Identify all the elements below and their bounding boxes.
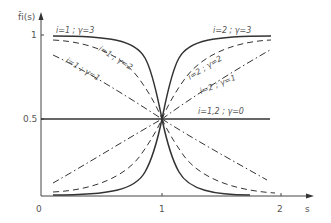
y-axis-label: f̄i(s) [18,11,35,22]
chart: f̄i(s) s 0 1 2 1 0.5 i=1 ; γ=3 i=1 ; γ=2… [0,0,331,223]
tick-label-x1: 1 [159,204,165,214]
annot-i2-g3: i=2 ; γ=3 [213,26,251,35]
x-axis-arrow-icon [306,194,314,199]
tick-label-x0: 0 [36,204,42,214]
curve-g1-lower-left [53,119,162,183]
tick-label-y1: 1 [31,30,37,40]
annot-i2-g1: i=2 ; γ=1 [198,73,237,96]
tick-label-x2: 2 [277,204,283,214]
y-axis-arrow-icon [39,12,44,20]
curve-g3-lower-right [162,119,250,195]
curve-g3-lower-left [53,119,162,195]
annot-i1-g3: i=1 ; γ=3 [56,26,94,35]
axes [39,12,315,199]
annot-i1-g2: i=1 ; γ=2 [97,44,134,72]
tick-label-y05: 0.5 [23,114,37,124]
annot-i12-g0: i=1,2 ; γ=0 [198,107,244,116]
annot-i2-g2: i=2 ; γ=2 [186,54,223,82]
x-axis-label: s [305,204,310,214]
curve-g2-lower-left [53,119,162,192]
annot-i1-g1: i=1 ; γ=1 [64,56,102,83]
